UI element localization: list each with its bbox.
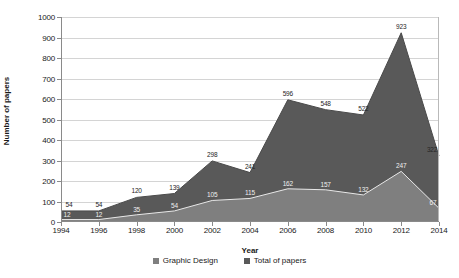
data-label-total: 241 <box>245 163 255 170</box>
x-tick <box>326 222 327 226</box>
y-tick <box>57 161 61 162</box>
data-label-graphic-design: 162 <box>283 181 293 188</box>
data-label-graphic-design: 12 <box>95 211 102 218</box>
chart-figure: Number of papers 01002003004005006007008… <box>0 0 459 278</box>
data-label-graphic-design: 115 <box>245 190 255 197</box>
y-tick-label: 500 <box>21 115 55 124</box>
data-label-total: 322 <box>427 147 437 154</box>
data-label-graphic-design: 67 <box>430 200 437 207</box>
data-label-total: 522 <box>358 106 368 113</box>
y-tick-label: 800 <box>21 54 55 63</box>
x-tick <box>250 222 251 226</box>
data-label-total: 298 <box>207 152 217 159</box>
x-tick <box>174 222 175 226</box>
x-tick-label: 1996 <box>79 226 119 235</box>
x-axis-title: Year <box>242 246 259 255</box>
legend-label: Total of papers <box>254 256 306 265</box>
data-label-graphic-design: 12 <box>64 211 71 218</box>
data-label-graphic-design: 105 <box>207 192 217 199</box>
data-label-total: 548 <box>320 100 330 107</box>
data-label-total: 923 <box>396 24 406 31</box>
data-label-graphic-design: 157 <box>320 182 330 189</box>
data-label-total: 596 <box>283 91 293 98</box>
legend-item-total-of-papers[interactable]: Total of papers <box>244 256 306 265</box>
legend-item-graphic-design[interactable]: Graphic Design <box>153 256 218 265</box>
y-tick-label: 100 <box>21 197 55 206</box>
x-tick <box>288 222 289 226</box>
y-tick-label: 900 <box>21 33 55 42</box>
y-tick <box>57 202 61 203</box>
x-tick-label: 2014 <box>419 226 459 235</box>
y-tick <box>57 38 61 39</box>
y-tick-label: 400 <box>21 136 55 145</box>
plot-right-border <box>438 17 439 222</box>
x-tick <box>363 222 364 226</box>
y-tick <box>57 58 61 59</box>
x-tick <box>99 222 100 226</box>
legend-label: Graphic Design <box>163 256 218 265</box>
x-tick-label: 1998 <box>117 226 157 235</box>
data-label-total: 139 <box>169 184 179 191</box>
y-axis-line <box>61 17 62 222</box>
x-tick-label: 2012 <box>381 226 421 235</box>
x-tick <box>439 222 440 226</box>
data-label-graphic-design: 132 <box>358 187 368 194</box>
y-tick-label: 200 <box>21 177 55 186</box>
x-tick <box>401 222 402 226</box>
x-tick <box>212 222 213 226</box>
legend-swatch-icon <box>244 258 250 264</box>
data-label-graphic-design: 35 <box>133 207 140 214</box>
x-tick-label: 2010 <box>343 226 383 235</box>
legend-swatch-icon <box>153 258 159 264</box>
y-tick-label: 1000 <box>21 13 55 22</box>
x-tick-label: 1994 <box>41 226 81 235</box>
x-tick-label: 2004 <box>230 226 270 235</box>
y-axis-title: Number of papers <box>2 77 11 145</box>
x-tick-label: 2002 <box>192 226 232 235</box>
y-tick <box>57 17 61 18</box>
y-tick-label: 600 <box>21 95 55 104</box>
x-tick <box>61 222 62 226</box>
y-tick <box>57 99 61 100</box>
data-label-total: 54 <box>95 202 102 209</box>
x-tick <box>137 222 138 226</box>
chart-legend: Graphic Design Total of papers <box>0 256 459 265</box>
data-label-total: 54 <box>66 202 73 209</box>
y-tick <box>57 181 61 182</box>
data-label-graphic-design: 54 <box>171 203 178 210</box>
x-tick-label: 2000 <box>154 226 194 235</box>
plot-area: 5454120139298241596548522923322121235541… <box>61 17 439 222</box>
data-label-graphic-design: 247 <box>396 163 406 170</box>
y-tick-label: 300 <box>21 156 55 165</box>
x-tick-label: 2008 <box>306 226 346 235</box>
y-tick <box>57 140 61 141</box>
data-label-total: 120 <box>131 188 141 195</box>
y-tick <box>57 79 61 80</box>
y-tick-label: 700 <box>21 74 55 83</box>
y-tick <box>57 120 61 121</box>
x-tick-label: 2006 <box>268 226 308 235</box>
